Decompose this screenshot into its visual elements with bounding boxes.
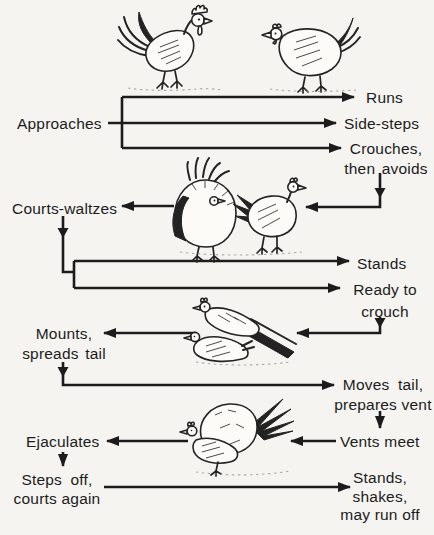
rooster-waltzing-and-hen-illustration [173,158,306,262]
chicken-courtship-ethogram: Approaches Courts-waltzes Mounts, spread… [0,0,434,535]
rooster-and-hen-standing-illustration [118,5,360,93]
rooster-hen-copulating-illustration [180,399,294,476]
label-moves-tail-prepares-vent: Moves tail, prepares vent [333,375,433,415]
arrow-mounts-to-moves-tail [63,362,334,385]
down-arrowhead [58,228,69,238]
label-vents-meet: Vents meet [340,432,420,451]
label-line: Ready to [337,279,433,301]
down-arrowhead [375,188,386,198]
label-line: Stands, [330,469,430,488]
label-line: courts again [7,490,107,509]
label-line: shakes, [330,488,430,507]
label-ready-to-crouch: Ready to crouch [337,279,433,322]
label-stands-shakes-may-run-off: Stands, shakes, may run off [330,469,430,525]
label-approaches: Approaches [17,114,102,133]
label-courts-waltzes: Courts-waltzes [12,199,117,218]
label-line: spreads tail [14,344,114,364]
label-runs: Runs [366,88,403,107]
label-stands: Stands [357,254,406,273]
label-side-steps: Side-steps [344,114,419,133]
label-steps-off-courts-again: Steps off, courts again [7,471,107,508]
label-line: Mounts, [14,324,114,344]
label-line: Moves tail, [333,375,433,395]
label-crouches-then-avoids: Crouches, then avoids [338,139,434,179]
label-line: Steps off, [7,471,107,490]
label-line: may run off [330,506,430,525]
label-line: then avoids [338,159,434,179]
down-arrowhead [58,367,69,377]
label-line: prepares vent [333,395,433,415]
label-mounts-spreads-tail: Mounts, spreads tail [14,324,114,364]
courts-waltzes-down-line [63,216,74,272]
rooster-mounting-hen-illustration [184,298,296,365]
label-line: Crouches, [338,139,434,159]
label-ejaculates: Ejaculates [26,432,100,451]
label-line: crouch [337,301,433,323]
